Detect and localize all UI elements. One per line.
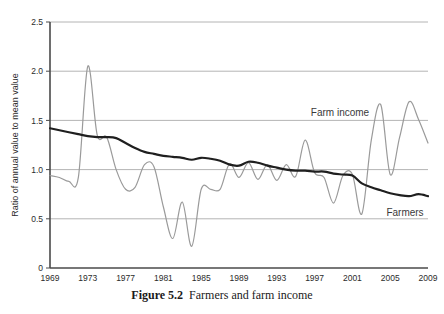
y-tick-label-2.0: 2.0 bbox=[31, 66, 43, 76]
figure-caption: Figure 5.2 Farmers and farm income bbox=[0, 288, 444, 303]
x-tick-label-2009: 2009 bbox=[419, 273, 438, 283]
caption-number: Figure 5.2 bbox=[131, 288, 183, 302]
x-tick-label-1985: 1985 bbox=[192, 273, 211, 283]
x-tick-label-1989: 1989 bbox=[230, 273, 249, 283]
annotation-farmers: Farmers bbox=[386, 207, 423, 218]
y-axis-title: Ratio of annual value to mean value bbox=[10, 73, 20, 217]
series-line-farm-income bbox=[50, 66, 428, 247]
x-tick-label-1997: 1997 bbox=[305, 273, 324, 283]
x-tick-label-2001: 2001 bbox=[343, 273, 362, 283]
figure-container: 00.51.01.52.02.5196919731977198119851989… bbox=[0, 0, 444, 314]
x-tick-label-1977: 1977 bbox=[116, 273, 135, 283]
x-tick-label-1973: 1973 bbox=[78, 273, 97, 283]
x-tick-label-1981: 1981 bbox=[154, 273, 173, 283]
x-tick-label-2005: 2005 bbox=[381, 273, 400, 283]
annotation-farm-income: Farm income bbox=[311, 107, 370, 118]
chart-plot: 00.51.01.52.02.5196919731977198119851989… bbox=[0, 0, 444, 314]
caption-title: Farmers and farm income bbox=[189, 288, 313, 302]
x-tick-label-1993: 1993 bbox=[267, 273, 286, 283]
y-tick-label-0: 0 bbox=[38, 263, 43, 273]
y-tick-label-0.5: 0.5 bbox=[31, 214, 43, 224]
x-tick-label-1969: 1969 bbox=[41, 273, 60, 283]
y-tick-label-1.5: 1.5 bbox=[31, 116, 43, 126]
y-tick-label-2.5: 2.5 bbox=[31, 17, 43, 27]
y-tick-label-1.0: 1.0 bbox=[31, 165, 43, 175]
